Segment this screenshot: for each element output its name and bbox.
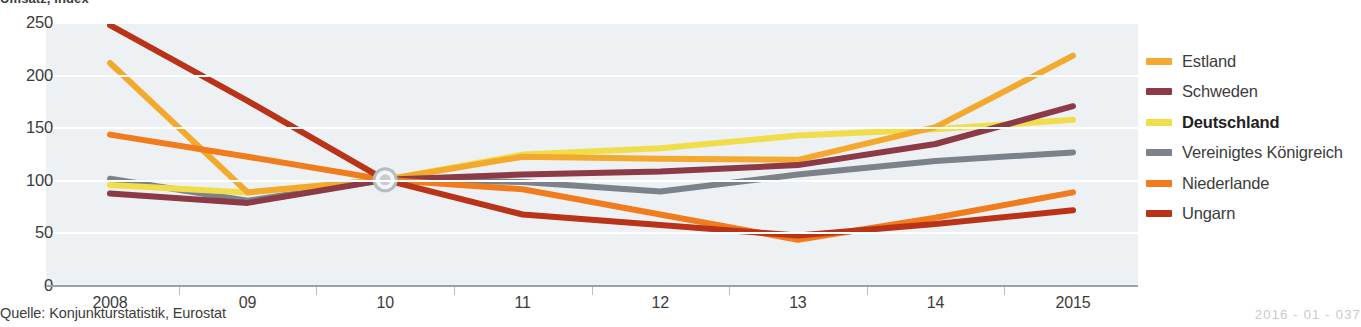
y-tick-label: 250	[9, 13, 53, 32]
x-tick-label: 10	[340, 294, 430, 312]
legend-item[interactable]: Estland	[1146, 46, 1359, 77]
legend-item[interactable]: Niederlande	[1146, 168, 1359, 199]
x-axis-line	[46, 285, 1138, 287]
x-tick-mark	[729, 287, 730, 295]
y-tick-label: 150	[9, 118, 53, 137]
x-tick-mark	[592, 287, 593, 295]
legend-item[interactable]: Schweden	[1146, 77, 1359, 108]
x-tick-mark	[1004, 287, 1005, 295]
x-tick-label: 11	[478, 294, 568, 312]
gridline	[46, 75, 1138, 77]
gridline	[46, 127, 1138, 129]
y-tick-label: 100	[9, 170, 53, 189]
y-tick-label: 50	[9, 223, 53, 242]
legend-color-swatch-icon	[1146, 210, 1172, 217]
legend: EstlandSchwedenDeutschlandVereinigtes Kö…	[1146, 46, 1359, 229]
legend-item[interactable]: Ungarn	[1146, 199, 1359, 230]
y-tick-label: 200	[9, 65, 53, 84]
gridline	[46, 180, 1138, 182]
legend-color-swatch-icon	[1146, 88, 1172, 95]
x-tick-label: 2015	[1028, 294, 1118, 312]
legend-color-swatch-icon	[1146, 149, 1172, 156]
legend-item-label: Vereinigtes Königreich	[1182, 143, 1343, 162]
legend-item[interactable]: Deutschland	[1146, 107, 1359, 138]
legend-item-label: Deutschland	[1182, 113, 1279, 132]
legend-color-swatch-icon	[1146, 58, 1172, 65]
x-tick-mark	[179, 287, 180, 295]
plot-area	[46, 22, 1138, 286]
gridline	[46, 232, 1138, 234]
x-tick-label: 14	[890, 294, 980, 312]
legend-item-label: Schweden	[1182, 82, 1258, 101]
x-tick-mark	[316, 287, 317, 295]
x-tick-mark	[867, 287, 868, 295]
line-chart: 050100150200250 20080910111213142015 Est…	[0, 8, 1359, 300]
page-title: Umsatz, Index	[0, 0, 560, 7]
legend-item-label: Estland	[1182, 52, 1236, 71]
legend-color-swatch-icon	[1146, 180, 1172, 187]
x-tick-label: 12	[615, 294, 705, 312]
legend-item-label: Ungarn	[1182, 204, 1235, 223]
x-tick-mark	[454, 287, 455, 295]
legend-item[interactable]: Vereinigtes Königreich	[1146, 138, 1359, 169]
series-canvas	[46, 22, 1138, 286]
source-note: Quelle: Konjunkturstatistik, Eurostat	[0, 305, 226, 321]
document-code: 2016 - 01 - 037	[1255, 307, 1361, 322]
legend-item-label: Niederlande	[1182, 174, 1269, 193]
gridline	[46, 22, 1138, 24]
x-tick-label: 13	[753, 294, 843, 312]
legend-color-swatch-icon	[1146, 119, 1172, 126]
